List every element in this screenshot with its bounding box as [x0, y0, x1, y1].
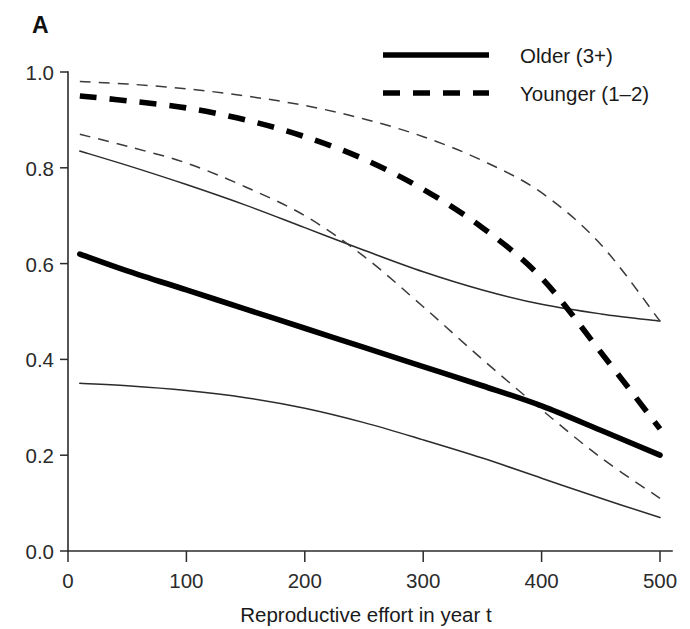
curve-older-3-upper-ci	[80, 151, 660, 321]
curve-older-3-lower-ci	[80, 383, 660, 517]
legend: Older (3+) Younger (1–2)	[383, 44, 649, 105]
y-tick-label: 0.0	[26, 540, 55, 563]
y-tick-label: 0.8	[26, 157, 55, 180]
y-tick-label: 0.6	[26, 253, 55, 276]
x-tick-label: 400	[524, 569, 558, 592]
legend-label-older: Older (3+)	[520, 44, 613, 67]
panel-label: A	[32, 12, 49, 38]
x-tick-label: 0	[62, 569, 73, 592]
x-tick-label: 500	[643, 569, 677, 592]
x-axis-ticks: 0 100 200 300 400 500	[62, 551, 677, 592]
x-tick-label: 100	[169, 569, 203, 592]
y-tick-label: 0.2	[26, 444, 55, 467]
curve-group	[80, 82, 660, 518]
y-axis-ticks: 1.0 0.8 0.6 0.4 0.2 0.0	[26, 61, 69, 563]
curve-older-3	[80, 254, 660, 455]
curve-younger-1-2	[80, 96, 660, 429]
x-tick-label: 200	[288, 569, 322, 592]
figure-panel-a: A 1.0 0.8 0.6 0.4 0.2 0.0 0	[0, 0, 690, 629]
x-axis-title: Reproductive effort in year t	[240, 603, 492, 626]
y-tick-label: 0.4	[26, 348, 55, 371]
y-tick-label: 1.0	[26, 61, 55, 84]
x-tick-label: 300	[406, 569, 440, 592]
chart-svg: A 1.0 0.8 0.6 0.4 0.2 0.0 0	[0, 0, 690, 629]
legend-label-younger: Younger (1–2)	[520, 82, 649, 105]
